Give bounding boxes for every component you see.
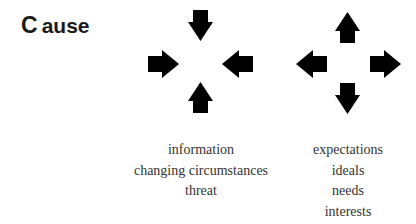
arrow-up-icon <box>335 12 360 43</box>
arrow-right-icon <box>370 50 401 78</box>
page-title: C ause <box>20 10 90 40</box>
title-rest: ause <box>42 13 90 39</box>
list-item: changing circumstances <box>121 161 281 182</box>
list-item: threat <box>121 181 281 202</box>
arrow-right-icon <box>148 50 179 78</box>
left-cause-list: information changing circumstances threa… <box>121 140 281 202</box>
arrow-up-icon <box>188 82 213 113</box>
list-item: ideals <box>288 161 408 182</box>
list-item: expectations <box>288 140 408 161</box>
list-item: interests <box>288 202 408 223</box>
title-initial: C <box>20 12 39 38</box>
arrow-left-icon <box>222 50 253 78</box>
list-item: information <box>121 140 281 161</box>
arrow-left-icon <box>296 50 327 78</box>
arrow-down-icon <box>188 10 213 41</box>
list-item: needs <box>288 181 408 202</box>
right-cause-list: expectations ideals needs interests <box>288 140 408 223</box>
arrow-down-icon <box>335 83 360 114</box>
